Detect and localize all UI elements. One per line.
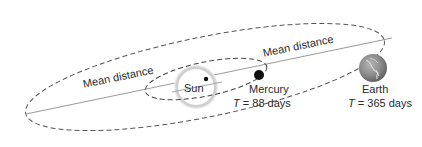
earth-label: Earth xyxy=(362,84,388,95)
mercury-period-label: T = 88 days xyxy=(233,98,291,109)
orbit-diagram xyxy=(0,0,422,147)
mercury-icon xyxy=(254,70,264,80)
mercury-period-symbol: T xyxy=(233,97,240,109)
mercury-period-value: = 88 days xyxy=(240,97,291,109)
mercury-label: Mercury xyxy=(249,84,289,95)
earth-icon xyxy=(359,54,387,82)
earth-period-label: T = 365 days xyxy=(348,98,412,109)
earth-period-value: = 365 days xyxy=(355,97,412,109)
sun-label: Sun xyxy=(184,83,204,94)
earth-period-symbol: T xyxy=(348,97,355,109)
focus-dot-icon xyxy=(204,77,208,81)
